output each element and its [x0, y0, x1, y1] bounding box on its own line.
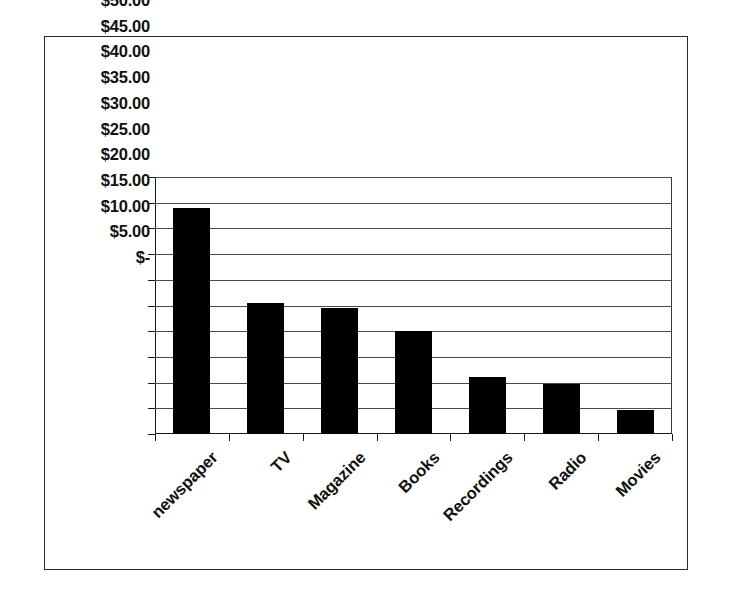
- y-axis-tick: [148, 383, 155, 384]
- y-axis-tick: [148, 280, 155, 281]
- y-axis-tick-label: $-: [0, 249, 150, 266]
- y-axis-tick: [148, 434, 155, 435]
- y-axis-tick-label: $35.00: [0, 69, 150, 86]
- y-axis-tick-label: $15.00: [0, 172, 150, 189]
- x-axis-tick-label: TV: [267, 448, 295, 476]
- bar: [543, 384, 580, 434]
- y-axis-tick: [148, 203, 155, 204]
- bar: [617, 410, 654, 434]
- bar: [247, 303, 284, 434]
- bar: [321, 308, 358, 434]
- bar: [395, 331, 432, 434]
- y-axis-tick-label: $25.00: [0, 121, 150, 138]
- bar: [469, 377, 506, 434]
- y-axis-labels: $50.00$45.00$40.00$35.00$30.00$25.00$20.…: [0, 0, 150, 257]
- chart-page: $50.00$45.00$40.00$35.00$30.00$25.00$20.…: [0, 0, 729, 608]
- x-axis-labels: newspaperTVMagazineBooksRecordingsRadioM…: [155, 434, 672, 564]
- y-axis-tick-label: $50.00: [0, 0, 150, 9]
- x-axis-tick: [672, 434, 673, 441]
- y-axis-tick: [148, 177, 155, 178]
- y-axis-tick: [148, 254, 155, 255]
- y-axis-tick: [148, 408, 155, 409]
- x-axis-tick-label: Movies: [612, 448, 665, 501]
- bar: [173, 208, 210, 434]
- bar-series: [155, 177, 672, 434]
- x-axis-tick-label: Recordings: [440, 448, 517, 525]
- y-axis-tick-label: $45.00: [0, 18, 150, 35]
- x-axis-tick-label: Radio: [545, 448, 590, 493]
- x-axis-tick-label: Books: [394, 448, 443, 497]
- y-axis-tick: [148, 331, 155, 332]
- x-axis-tick-label: newspaper: [148, 448, 222, 522]
- y-axis-tick-label: $10.00: [0, 198, 150, 215]
- y-axis-tick: [148, 357, 155, 358]
- y-axis-tick: [148, 306, 155, 307]
- y-axis-tick-label: $40.00: [0, 43, 150, 60]
- y-axis-tick-label: $5.00: [0, 223, 150, 240]
- x-axis-tick-label: Magazine: [304, 448, 369, 513]
- y-axis-tick-label: $20.00: [0, 146, 150, 163]
- y-axis-tick: [148, 228, 155, 229]
- y-axis-tick-label: $30.00: [0, 95, 150, 112]
- plot-area: [155, 177, 672, 434]
